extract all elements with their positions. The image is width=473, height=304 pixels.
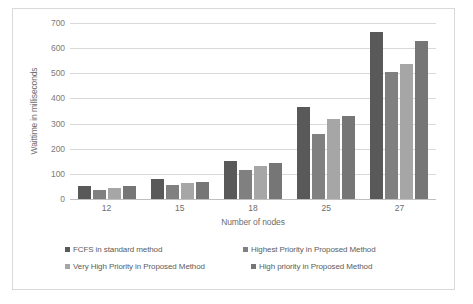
x-axis-tick-labels: 1215182527 <box>70 203 436 213</box>
bar <box>415 41 428 199</box>
bar <box>166 185 179 199</box>
bar <box>269 163 282 199</box>
bar <box>342 116 355 199</box>
legend-item: FCFS in standard method <box>65 245 243 254</box>
bar-group <box>363 23 436 199</box>
chart-legend: FCFS in standard methodHighest Priority … <box>65 241 415 275</box>
y-axis-tick-label: 200 <box>51 144 65 154</box>
x-axis-tick-label: 27 <box>363 203 436 213</box>
y-axis-tick-label: 500 <box>51 68 65 78</box>
bar-group <box>143 23 216 199</box>
bar <box>196 182 209 199</box>
legend-label: High priority in Proposed Method <box>259 262 372 271</box>
x-axis-line <box>70 199 436 200</box>
bar-group <box>70 23 143 199</box>
legend-item: Highest Priority in Proposed Method <box>243 245 376 254</box>
legend-row: FCFS in standard methodHighest Priority … <box>65 241 415 258</box>
legend-swatch-icon <box>251 264 256 269</box>
bar <box>93 190 106 199</box>
y-axis-title-text: Waittime in milliseconds <box>29 68 39 155</box>
bar <box>327 119 340 199</box>
legend-item: High priority in Proposed Method <box>251 262 372 271</box>
bar-group <box>290 23 363 199</box>
y-axis-tick-label: 700 <box>51 18 65 28</box>
legend-item: Very High Priority in Proposed Method <box>65 262 251 271</box>
x-axis-tick-label: 18 <box>216 203 289 213</box>
y-axis-tick-label: 300 <box>51 119 65 129</box>
plot-area: 0100200300400500600700 <box>70 23 436 199</box>
x-axis-tick-label: 15 <box>143 203 216 213</box>
bar <box>385 72 398 199</box>
x-axis-tick-label: 12 <box>70 203 143 213</box>
legend-swatch-icon <box>65 264 70 269</box>
bar-chart-figure: Waittime in milliseconds 010020030040050… <box>12 8 455 290</box>
bar <box>297 107 310 199</box>
x-axis-tick-label: 25 <box>290 203 363 213</box>
legend-label: Highest Priority in Proposed Method <box>251 245 376 254</box>
bar <box>254 166 267 199</box>
bar <box>151 179 164 199</box>
y-axis-tick-label: 100 <box>51 169 65 179</box>
legend-label: Very High Priority in Proposed Method <box>73 262 205 271</box>
bar-groups <box>70 23 436 199</box>
y-axis-tick-label: 400 <box>51 93 65 103</box>
bar <box>181 183 194 199</box>
legend-swatch-icon <box>243 247 248 252</box>
y-axis-tick-label: 600 <box>51 43 65 53</box>
bar <box>239 170 252 199</box>
y-axis-title: Waittime in milliseconds <box>27 23 41 199</box>
bar <box>312 134 325 199</box>
bar <box>78 186 91 199</box>
bar-group <box>216 23 289 199</box>
bar <box>224 161 237 199</box>
legend-swatch-icon <box>65 247 70 252</box>
legend-label: FCFS in standard method <box>73 245 162 254</box>
x-axis-title: Number of nodes <box>70 217 436 227</box>
bar <box>123 186 136 199</box>
y-axis-tick-label: 0 <box>60 194 65 204</box>
bar <box>108 188 121 199</box>
legend-row: Very High Priority in Proposed MethodHig… <box>65 258 415 275</box>
bar <box>400 64 413 199</box>
bar <box>370 32 383 199</box>
